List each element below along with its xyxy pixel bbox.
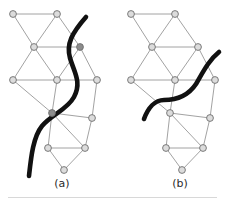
graph-node <box>149 44 156 51</box>
graph-edge <box>210 80 215 118</box>
graph-edge <box>182 148 203 170</box>
graph-node <box>61 167 68 174</box>
graph-node <box>10 11 17 18</box>
caption-panel-b: (b) <box>160 177 200 190</box>
graph-node <box>172 77 179 84</box>
graph-edge <box>52 113 85 148</box>
graph-node <box>77 44 84 51</box>
graph-edge <box>13 80 52 113</box>
graph-panel-a <box>10 11 101 176</box>
caption-panel-a: (a) <box>42 177 82 190</box>
graph-edge <box>48 148 64 170</box>
graph-node <box>54 77 61 84</box>
graph-node <box>195 44 202 51</box>
graph-edge <box>85 118 92 148</box>
cut-curve-b <box>144 52 219 119</box>
graph-edge <box>166 148 182 170</box>
graph-edge <box>80 47 97 80</box>
graph-edge <box>203 118 210 148</box>
bottom-divider <box>8 197 217 198</box>
graph-edge <box>170 113 203 148</box>
graph-node <box>45 145 52 152</box>
graph-node <box>163 145 170 152</box>
graph-edge <box>175 47 198 80</box>
graph-edge <box>13 14 34 47</box>
graph-edge <box>170 80 175 113</box>
graph-edge <box>170 113 210 118</box>
graph-edge <box>131 47 152 80</box>
graph-edge <box>34 47 57 80</box>
graph-panel-b <box>128 11 219 174</box>
graph-edge <box>152 14 175 47</box>
graph-node <box>200 145 207 152</box>
graph-node <box>94 77 101 84</box>
graph-edge <box>131 14 152 47</box>
graph-node <box>89 115 96 122</box>
graph-node <box>10 77 17 84</box>
graph-edge <box>52 80 57 113</box>
graph-edge <box>64 148 85 170</box>
graph-node <box>172 11 179 18</box>
graph-edge <box>13 47 34 80</box>
graph-node <box>128 11 135 18</box>
graph-node <box>128 77 135 84</box>
graph-edge <box>166 113 170 148</box>
figure-canvas <box>0 0 225 202</box>
graph-node <box>207 115 214 122</box>
graph-node <box>179 167 186 174</box>
graph-edge <box>152 47 175 80</box>
graph-edge <box>175 14 198 47</box>
cut-curve-a <box>29 17 86 176</box>
graph-node <box>49 110 56 117</box>
graph-node <box>54 11 61 18</box>
graph-node <box>31 44 38 51</box>
graph-node <box>82 145 89 152</box>
graph-edge <box>92 80 97 118</box>
graph-node <box>212 77 219 84</box>
graph-node <box>167 110 174 117</box>
graph-edge <box>34 14 57 47</box>
